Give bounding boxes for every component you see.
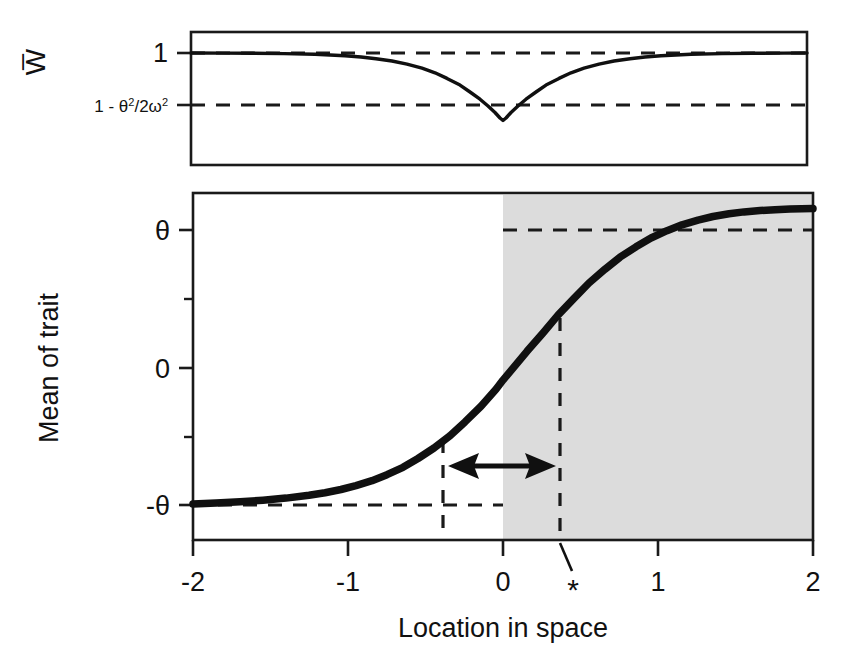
bottom-ytick-label-theta: θ (155, 216, 170, 246)
figure-container: W̅ 1 1 - θ2/2ω2 (0, 0, 849, 667)
lower-label-theta: θ (119, 97, 128, 116)
bottom-ytick-label-zero: 0 (155, 354, 170, 384)
star-leader-line (560, 543, 572, 571)
lower-label-mid: /2 (134, 97, 148, 116)
bottom-panel: θ 0 -θ -2 -1 0 1 2 * Location in space M… (34, 193, 821, 643)
top-panel: W̅ 1 1 - θ2/2ω2 (20, 32, 807, 165)
top-panel-axis-title-group: W̅ (20, 48, 51, 75)
bottom-xtick-label-2: 2 (805, 567, 820, 597)
bottom-xtick-label-m2: -2 (181, 567, 205, 597)
star-marker-label: * (567, 573, 579, 606)
bottom-xtick-label-0: 0 (495, 567, 510, 597)
top-panel-curve (191, 53, 807, 121)
lower-label-omega: ω (149, 97, 162, 116)
bottom-xtick-label-m1: -1 (336, 567, 360, 597)
bottom-panel-y-axis-title-group: Mean of trait (34, 292, 64, 443)
top-ytick-label-1: 1 (153, 38, 168, 68)
bottom-ytick-label-neg-theta: -θ (146, 491, 170, 521)
lower-label-sup2: 2 (162, 96, 168, 108)
scientific-figure: W̅ 1 1 - θ2/2ω2 (0, 0, 849, 667)
bottom-xtick-label-1: 1 (650, 567, 665, 597)
top-panel-axis-title: W̅ (20, 48, 51, 75)
bottom-panel-y-axis-title: Mean of trait (34, 292, 64, 443)
shaded-habitat-region (503, 195, 813, 539)
bottom-panel-x-axis-title: Location in space (398, 613, 608, 643)
top-ytick-label-lower: 1 - θ2/2ω2 (94, 96, 168, 116)
lower-label-prefix: 1 - (94, 97, 119, 116)
